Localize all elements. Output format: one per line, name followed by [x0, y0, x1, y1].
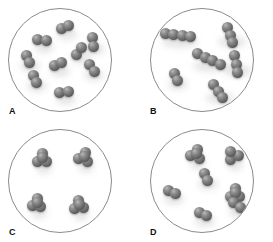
atom-sphere — [63, 86, 74, 97]
atom-sphere — [63, 20, 74, 31]
panel-d: D — [137, 121, 273, 242]
container-circle-a — [8, 8, 112, 112]
atom-sphere — [217, 92, 228, 103]
atom-sphere — [225, 146, 236, 157]
atom-sphere — [76, 42, 87, 53]
atom-sphere — [202, 175, 213, 186]
atom-sphere — [170, 188, 181, 199]
atom-sphere — [232, 67, 243, 78]
atom-sphere — [31, 77, 42, 88]
container-circle-d — [150, 129, 254, 233]
panel-c: C — [0, 121, 136, 242]
atom-sphere — [172, 75, 183, 86]
atom-sphere — [201, 210, 212, 221]
atom-sphere — [235, 202, 246, 213]
atom-sphere — [185, 31, 196, 42]
atom-sphere — [88, 41, 99, 52]
atom-sphere — [215, 59, 226, 70]
panel-label-c: C — [9, 228, 16, 237]
panel-label-a: A — [9, 107, 16, 116]
atom-sphere — [56, 57, 67, 68]
atom-sphere — [227, 37, 238, 48]
atom-sphere — [41, 35, 52, 46]
container-circle-c — [8, 129, 112, 233]
atom-sphere — [89, 66, 100, 77]
panel-label-d: D — [150, 228, 157, 237]
atom-sphere — [24, 57, 35, 68]
container-circle-b — [150, 8, 254, 112]
molecular-diagram-figure: A B C D — [0, 0, 273, 242]
panel-a: A — [0, 0, 136, 121]
panel-b: B — [137, 0, 273, 121]
panel-label-b: B — [150, 107, 157, 116]
